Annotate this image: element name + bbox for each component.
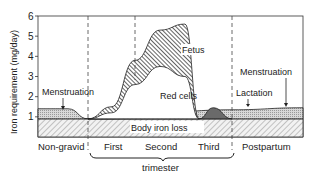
trimester-bracket: [90, 153, 234, 161]
y-tick-label: 6: [28, 11, 34, 22]
label-menstruation-right: Menstruation: [240, 67, 292, 77]
phase-label-second: Second: [145, 141, 177, 152]
y-tick-label: 5: [28, 31, 34, 42]
phase-label-postpartum: Postpartum: [242, 141, 291, 152]
y-tick-label: 4: [28, 51, 34, 62]
label-menstruation-left: Menstruation: [42, 87, 94, 97]
phase-label-third: Third: [198, 141, 220, 152]
y-tick-label: 1: [28, 111, 34, 122]
label-lactation: Lactation: [236, 88, 273, 98]
area-layers: [38, 24, 303, 137]
arrowhead-lactation: [246, 104, 250, 107]
phase-label-non-gravid: Non-gravid: [38, 141, 84, 152]
label-fetus: Fetus: [182, 45, 205, 55]
label-red-cells: Red cells: [160, 91, 198, 101]
trimester-label: trimester: [142, 162, 179, 173]
iron-requirement-chart: 123456 Iron requirement (mg/day) Menstru…: [0, 0, 316, 181]
y-tick-label: 2: [28, 91, 34, 102]
y-axis-ticks: 123456: [28, 11, 38, 123]
label-body-iron-loss: Body iron loss: [131, 123, 188, 133]
y-tick-label: 3: [28, 71, 34, 82]
arrowhead-menstruation-right: [284, 103, 288, 107]
phase-label-first: First: [104, 141, 123, 152]
y-axis-label: Iron requirement (mg/day): [9, 30, 19, 134]
